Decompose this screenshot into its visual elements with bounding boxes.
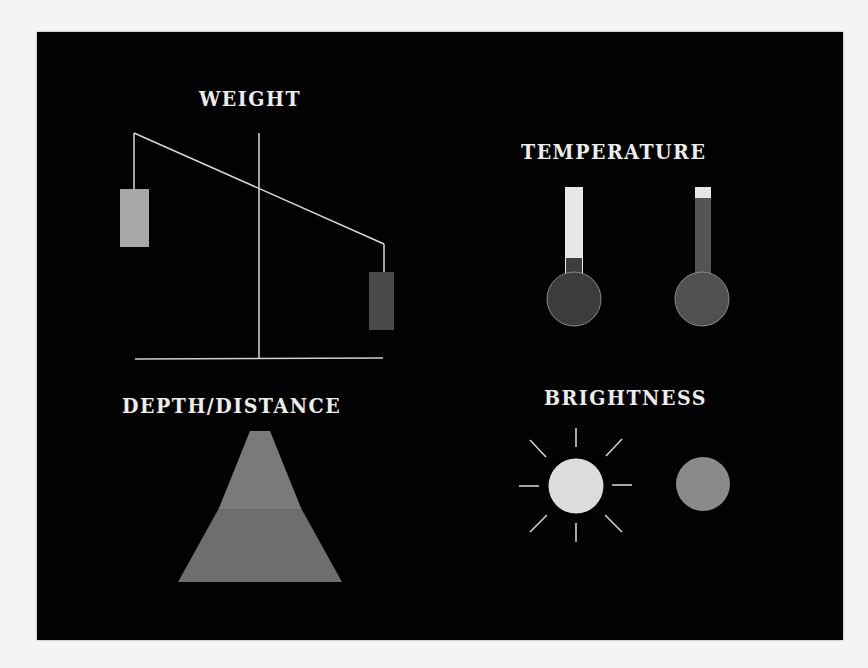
temperature-title: TEMPERATURE (521, 140, 706, 163)
depth-perspective-road (178, 431, 342, 582)
weight-title: WEIGHT (199, 87, 301, 110)
dim-circle-icon (676, 457, 730, 511)
thermometer-cold (547, 187, 601, 326)
brightness-title: BRIGHTNESS (544, 386, 707, 409)
diagram-canvas (0, 0, 868, 668)
heavy-weight-block (369, 272, 394, 330)
thermometer-hot (675, 187, 729, 326)
thermometer-empty-top (695, 187, 711, 198)
far-band (219, 431, 301, 508)
weight-balance-scale (120, 133, 394, 359)
thermometer-bulb (547, 272, 601, 326)
bright-sun-icon (519, 428, 632, 542)
thermometer-bulb (675, 272, 729, 326)
light-weight-block (120, 189, 149, 247)
depth-distance-title: DEPTH/DISTANCE (122, 394, 341, 417)
balance-base (135, 358, 383, 359)
near-band (178, 508, 342, 582)
thermometer-tube (695, 187, 711, 277)
